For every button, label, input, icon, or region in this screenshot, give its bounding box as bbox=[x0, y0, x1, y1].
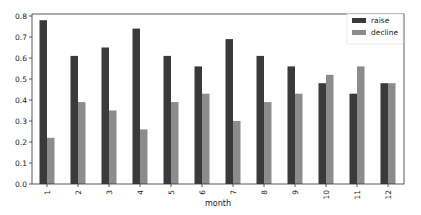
x-tick-label: 9 bbox=[291, 190, 300, 195]
x-tick-label: 2 bbox=[74, 190, 83, 195]
bar-decline-4 bbox=[140, 129, 148, 184]
bar-decline-2 bbox=[78, 102, 86, 184]
bars-group bbox=[40, 20, 396, 184]
bar-raise-1 bbox=[40, 20, 48, 184]
y-tick-label: 0.8 bbox=[15, 12, 27, 21]
bar-raise-12 bbox=[381, 83, 389, 184]
bar-raise-11 bbox=[350, 94, 358, 184]
bar-raise-3 bbox=[102, 48, 110, 185]
x-tick-label: 8 bbox=[260, 190, 269, 195]
y-tick-label: 0.7 bbox=[15, 33, 27, 42]
x-tick-label: 11 bbox=[353, 190, 362, 200]
bar-decline-12 bbox=[388, 83, 396, 184]
bar-raise-9 bbox=[288, 66, 296, 184]
bar-raise-6 bbox=[195, 66, 203, 184]
x-axis-label: month bbox=[205, 199, 231, 208]
bar-decline-1 bbox=[47, 138, 55, 184]
bar-decline-9 bbox=[295, 94, 303, 184]
y-axis: 0.00.10.20.30.40.50.60.70.8 bbox=[15, 12, 32, 189]
y-tick-label: 0.2 bbox=[15, 138, 27, 147]
bar-decline-5 bbox=[171, 102, 179, 184]
bar-decline-11 bbox=[357, 66, 365, 184]
x-tick-label: 1 bbox=[43, 190, 52, 195]
x-tick-label: 6 bbox=[198, 190, 207, 195]
y-tick-label: 0.6 bbox=[15, 54, 27, 63]
x-tick-label: 4 bbox=[136, 190, 145, 195]
x-tick-label: 3 bbox=[105, 190, 114, 195]
y-tick-label: 0.4 bbox=[15, 96, 27, 105]
x-tick-label: 12 bbox=[384, 190, 393, 200]
bar-raise-2 bbox=[71, 56, 79, 184]
bar-decline-7 bbox=[233, 121, 241, 184]
bar-decline-3 bbox=[109, 111, 117, 185]
bar-raise-7 bbox=[226, 39, 234, 184]
bar-decline-6 bbox=[202, 94, 210, 184]
y-tick-label: 0.1 bbox=[15, 159, 27, 168]
legend-label-raise: raise bbox=[371, 16, 390, 25]
legend-swatch-raise bbox=[352, 18, 366, 23]
legend-swatch-decline bbox=[352, 30, 366, 35]
bar-chart: 0.00.10.20.30.40.50.60.70.8 123456789101… bbox=[0, 0, 421, 215]
bar-decline-8 bbox=[264, 102, 272, 184]
x-tick-label: 5 bbox=[167, 190, 176, 195]
y-tick-label: 0.5 bbox=[15, 75, 27, 84]
y-tick-label: 0.0 bbox=[15, 180, 27, 189]
x-tick-label: 10 bbox=[322, 190, 331, 200]
bar-raise-4 bbox=[133, 29, 141, 184]
legend-label-decline: decline bbox=[371, 28, 398, 37]
y-tick-label: 0.3 bbox=[15, 117, 27, 126]
bar-decline-10 bbox=[326, 75, 334, 184]
bar-raise-8 bbox=[257, 56, 265, 184]
x-tick-label: 7 bbox=[229, 190, 238, 195]
legend: raisedecline bbox=[347, 14, 403, 44]
bar-raise-10 bbox=[319, 83, 327, 184]
bar-raise-5 bbox=[164, 56, 172, 184]
x-axis: 123456789101112 bbox=[43, 184, 393, 200]
